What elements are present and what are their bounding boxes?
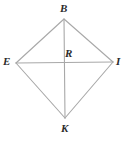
side-EK-line [16, 63, 65, 118]
vertex-label-I: I [116, 56, 120, 67]
vertex-label-B: B [60, 3, 67, 14]
side-BE-line [16, 19, 64, 63]
diagonal-EI-line [16, 62, 113, 63]
diagonal-BK-line [64, 19, 65, 118]
geometry-figure-kite: B E I K R [0, 0, 129, 143]
vertex-label-K: K [61, 123, 68, 134]
side-IK-line [65, 62, 113, 118]
vertex-label-E: E [3, 56, 10, 67]
intersection-label-R: R [65, 48, 72, 59]
